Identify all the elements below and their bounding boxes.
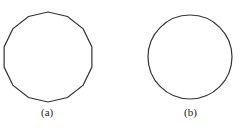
- label-a: (a): [41, 106, 53, 118]
- polygon-shape-a: [4, 12, 92, 102]
- label-b: (b): [184, 106, 197, 118]
- circle-shape-b: [148, 15, 232, 99]
- diagram-canvas: [0, 0, 240, 131]
